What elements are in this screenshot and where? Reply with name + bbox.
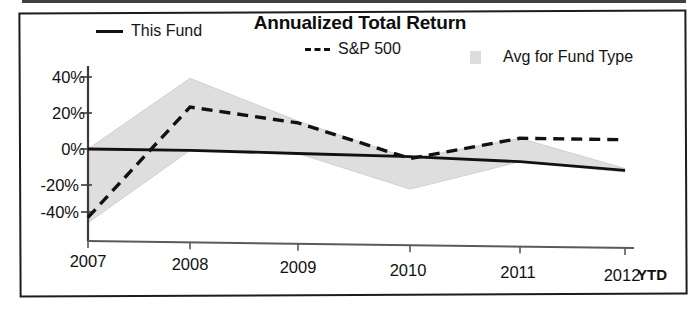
plot-graphics xyxy=(0,0,700,313)
x-axis-line xyxy=(88,241,634,248)
chart-canvas: Annualized Total Return This Fund S&P 50… xyxy=(0,0,700,313)
scanned-chart-figure: Annualized Total Return This Fund S&P 50… xyxy=(0,0,700,313)
x-axis-tick-marks xyxy=(88,241,625,255)
